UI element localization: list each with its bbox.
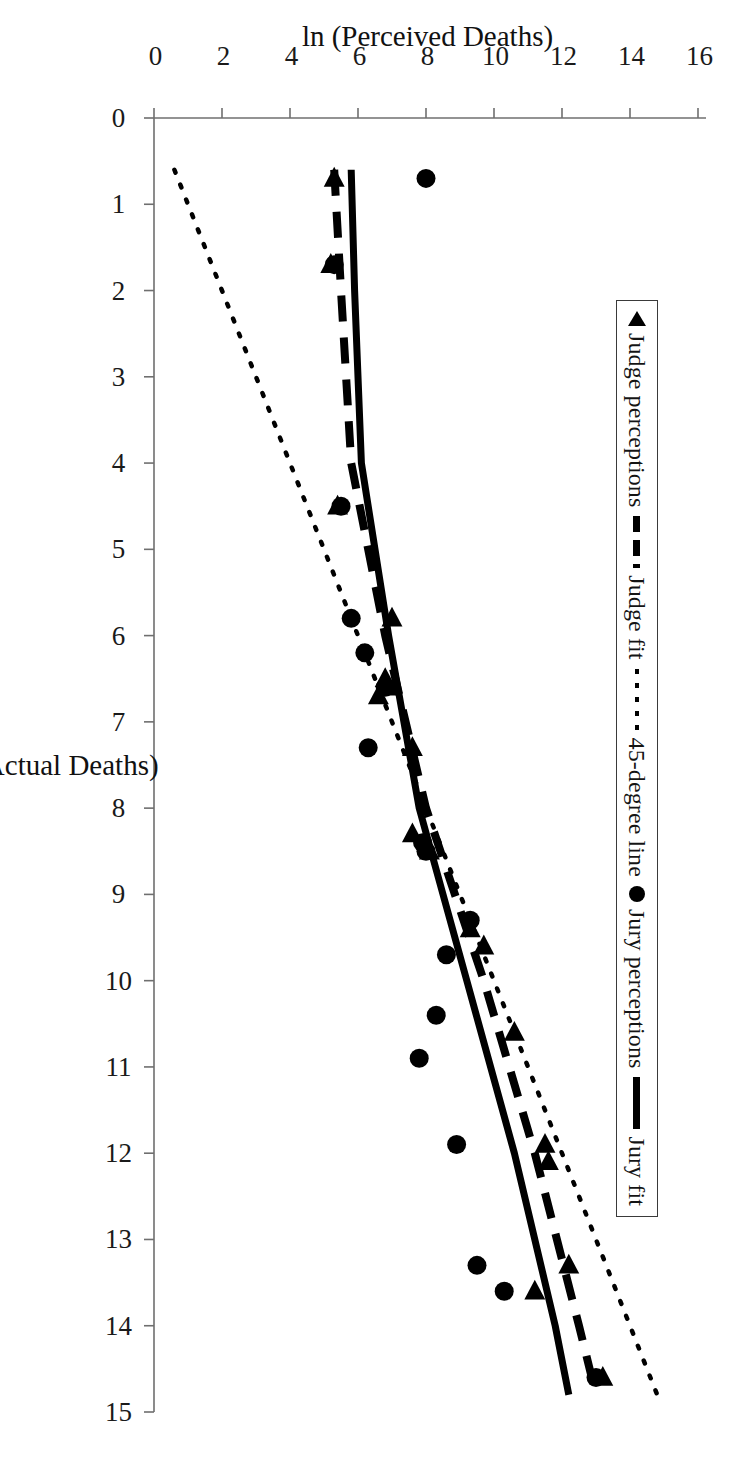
data-point-circle [359,738,378,757]
data-points-group [320,167,613,1387]
fit-line-dashed [334,170,596,1395]
y-axis-title: ln (Perceived Deaths) [278,20,578,53]
data-point-circle [461,911,480,930]
x-axis-tick-label: 15 [89,1397,149,1428]
x-axis-tick-label: 14 [89,1310,149,1341]
x-axis-tick-label: 4 [89,448,149,479]
data-point-circle [332,497,351,516]
data-point-circle [587,1368,606,1387]
data-point-circle [417,169,436,188]
legend-item-label: Judge fit [624,575,651,659]
y-axis-tick-label: 0 [126,41,186,72]
x-axis-tick-label: 5 [89,534,149,565]
filled-circle-icon [629,886,645,902]
data-point-circle [342,609,361,628]
legend-item-label: Jury perceptions [624,909,651,1069]
fit-lines-group [174,170,657,1395]
y-axis-tick-label: 16 [670,41,730,72]
x-axis-tick-label: 10 [89,965,149,996]
data-point-circle [495,1282,514,1301]
legend-item-label: Judge perceptions [624,333,651,507]
legend-item: Jury perceptions [624,886,651,1069]
solid-line-icon [634,1077,641,1129]
x-axis-tick-label: 6 [89,620,149,651]
data-point-circle [437,945,456,964]
data-point-triangle [538,1150,559,1170]
x-axis-title: ln (Actual Deaths) [0,749,202,782]
legend-item: Jury fit [624,1077,651,1205]
dotted-line-icon [635,669,639,731]
data-point-circle [427,1006,446,1025]
legend-item: 45-degree line [624,669,651,877]
fit-line-solid [351,170,569,1395]
data-point-circle [468,1256,487,1275]
rotated-figure-canvas: 0123456789101112131415 0246810121416 ln … [0,0,754,1472]
data-point-circle [355,643,374,662]
x-axis-tick-label: 7 [89,706,149,737]
triangle-left-icon [628,311,646,326]
dashed-line-icon [634,516,641,568]
legend-item-label: Jury fit [624,1136,651,1205]
figure-inner: 0123456789101112131415 0246810121416 ln … [0,0,754,1472]
x-axis-tick-label: 9 [89,879,149,910]
x-axis-tick-label: 3 [89,361,149,392]
x-axis-tick-label: 13 [89,1224,149,1255]
data-point-circle [417,842,436,861]
data-point-circle [325,255,344,274]
x-axis-tick-label: 2 [89,275,149,306]
data-point-circle [447,1135,466,1154]
data-point-triangle [324,167,345,187]
legend-item-label: 45-degree line [624,738,651,877]
x-axis-tick-label: 8 [89,793,149,824]
y-axis-tick-label: 2 [194,41,254,72]
fit-line-dotted [174,170,657,1395]
x-axis-tick-label: 11 [89,1051,149,1082]
legend-item: Judge perceptions [624,311,651,507]
data-point-circle [410,1049,429,1068]
chart-legend: Judge perceptionsJudge fit45-degree line… [616,300,658,1217]
data-point-triangle [473,935,494,955]
data-point-triangle [504,1021,525,1041]
data-point-circle [376,678,395,697]
x-axis-tick-label: 1 [89,189,149,220]
y-axis-tick-label: 14 [602,41,662,72]
data-point-triangle [535,1133,556,1153]
x-axis-tick-label: 12 [89,1138,149,1169]
x-axis-tick-label: 0 [89,103,149,134]
legend-item: Judge fit [624,516,651,659]
figure-root: 0123456789101112131415 0246810121416 ln … [0,0,754,1472]
